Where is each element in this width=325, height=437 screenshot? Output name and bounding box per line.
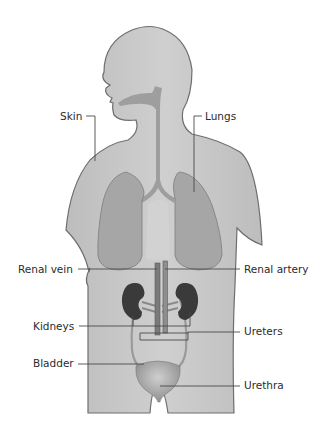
aorta [163,261,168,333]
label-renal-vein: Renal vein [18,263,73,275]
excretory-system-diagram [0,0,325,437]
label-kidneys: Kidneys [33,320,74,332]
skin-leader [86,116,95,161]
label-skin: Skin [60,110,82,122]
vena-cava [155,263,160,335]
mediastinum [146,200,170,260]
label-lungs: Lungs [205,110,236,122]
label-urethra: Urethra [244,379,284,391]
label-renal-artery: Renal artery [244,263,309,275]
label-bladder: Bladder [33,357,74,369]
label-ureters: Ureters [244,325,283,337]
